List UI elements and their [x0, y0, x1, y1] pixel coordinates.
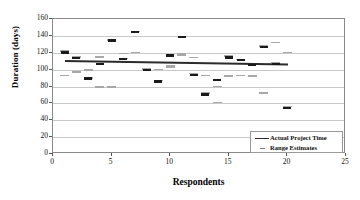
- data-mark: [95, 56, 104, 58]
- x-axis-tick-mark: [286, 153, 287, 156]
- data-mark: [154, 80, 162, 83]
- data-mark: [84, 69, 93, 71]
- data-mark: [201, 93, 209, 96]
- data-mark: [84, 77, 92, 80]
- y-axis-tick-label: 20: [30, 132, 48, 140]
- data-mark: [248, 64, 256, 67]
- data-mark: [178, 36, 186, 39]
- data-mark: [271, 42, 280, 44]
- legend-label-range: Range Estimates: [270, 145, 317, 152]
- data-mark: [189, 57, 198, 59]
- data-mark: [107, 86, 116, 88]
- x-axis-tick-label: 15: [218, 158, 238, 166]
- data-mark: [166, 54, 174, 57]
- x-axis-tick-mark: [345, 153, 346, 156]
- data-mark: [154, 69, 163, 71]
- data-mark: [72, 57, 80, 60]
- data-mark: [213, 79, 221, 82]
- y-axis-tick-label: 100: [30, 65, 48, 73]
- chart-figure: Duration (days) Respondents 020406080100…: [0, 0, 360, 200]
- data-mark: [272, 63, 280, 66]
- data-mark: [201, 75, 210, 77]
- x-axis-tick-label: 0: [42, 158, 62, 166]
- x-axis-tick-mark: [111, 153, 112, 156]
- y-axis-tick-label: 120: [30, 48, 48, 56]
- data-mark: [119, 53, 128, 55]
- y-axis-tick-label: 160: [30, 14, 48, 22]
- solid-line-icon: [254, 138, 270, 140]
- x-axis-tick-mark: [169, 153, 170, 156]
- data-mark: [248, 75, 257, 77]
- data-mark: [177, 54, 186, 56]
- data-mark: [61, 51, 69, 54]
- data-mark: [237, 59, 245, 62]
- legend-label-actual: Actual Project Time: [270, 135, 327, 142]
- x-axis-tick-label: 20: [276, 158, 296, 166]
- legend-item-actual: Actual Project Time: [254, 134, 339, 143]
- data-mark: [143, 69, 151, 72]
- data-mark: [95, 86, 104, 88]
- gridline: [53, 120, 344, 121]
- data-mark: [131, 52, 140, 54]
- y-axis-tick-label: 60: [30, 98, 48, 106]
- data-mark: [60, 75, 69, 77]
- x-axis-title: Respondents: [52, 177, 345, 187]
- dash-line-icon: [254, 148, 270, 149]
- gridline: [53, 36, 344, 37]
- y-axis-tick-label: 40: [30, 115, 48, 123]
- x-axis-tick-mark: [228, 153, 229, 156]
- gridline: [53, 103, 344, 104]
- data-mark: [283, 52, 292, 54]
- y-axis-tick-label: 0: [30, 149, 48, 157]
- data-mark: [108, 39, 116, 42]
- data-mark: [259, 92, 268, 94]
- data-mark: [213, 86, 222, 88]
- y-axis-title: Duration (days): [10, 12, 20, 102]
- data-mark: [96, 63, 104, 66]
- x-axis-tick-label: 25: [335, 158, 355, 166]
- data-mark: [224, 75, 233, 77]
- data-mark: [190, 74, 198, 77]
- data-mark: [131, 31, 139, 34]
- data-mark: [119, 58, 127, 61]
- y-axis-tick-label: 80: [30, 82, 48, 90]
- gridline: [53, 53, 344, 54]
- x-axis-tick-mark: [52, 153, 53, 156]
- data-mark: [225, 56, 233, 59]
- chart-legend: Actual Project Time Range Estimates: [250, 131, 343, 153]
- data-mark: [166, 66, 175, 68]
- data-mark: [72, 71, 81, 73]
- legend-item-range: Range Estimates: [254, 144, 339, 153]
- data-mark: [213, 102, 222, 104]
- y-axis-tick-label: 140: [30, 31, 48, 39]
- gridline: [53, 70, 344, 71]
- data-mark: [260, 46, 268, 49]
- x-axis-tick-label: 10: [159, 158, 179, 166]
- x-axis-tick-label: 5: [101, 158, 121, 166]
- data-mark: [236, 75, 245, 77]
- data-mark: [283, 107, 291, 110]
